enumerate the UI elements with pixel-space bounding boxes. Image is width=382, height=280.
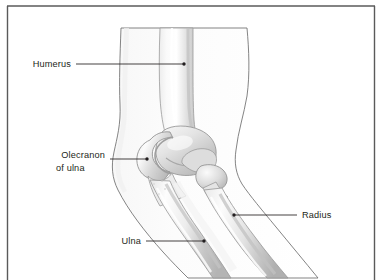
humerus-leader-dot — [182, 62, 185, 65]
olecranon-leader-dot — [145, 157, 148, 160]
olecranon-label-line2: of ulna — [56, 163, 85, 173]
ulna-leader-dot — [202, 239, 205, 242]
figure-root: Humerus Olecranon of ulna Radius Ulna — [0, 0, 382, 280]
humerus-label: Humerus — [33, 59, 72, 69]
olecranon-label-line1: Olecranon — [61, 150, 105, 160]
elbow-anatomy-illustration: Humerus Olecranon of ulna Radius Ulna — [0, 0, 382, 280]
radius-label: Radius — [302, 210, 332, 220]
ulna-label: Ulna — [122, 236, 142, 246]
radius-leader-dot — [232, 213, 235, 216]
